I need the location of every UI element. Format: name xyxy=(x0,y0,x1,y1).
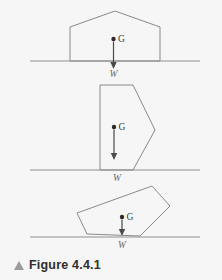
center-of-gravity-dot-3 xyxy=(120,215,124,219)
cg-label-3: G xyxy=(127,212,134,222)
tilted-quadrilateral-panel: G W xyxy=(30,186,200,250)
house-shaped-pentagon xyxy=(70,11,160,61)
tilted-quadrilateral xyxy=(77,186,170,236)
triangle-up-icon xyxy=(14,261,24,270)
figure-caption: Figure 4.4.1 xyxy=(14,258,101,272)
center-of-gravity-dot-1 xyxy=(111,37,115,41)
figure-diagram: G W G W G W xyxy=(0,0,222,280)
figure-caption-label: Figure 4.4.1 xyxy=(29,258,101,272)
center-of-gravity-dot-2 xyxy=(112,125,116,129)
weight-arrow-head-1 xyxy=(110,62,116,69)
weight-label-2: W xyxy=(113,173,122,183)
house-pentagon-panel: G W xyxy=(30,11,200,79)
weight-arrow-head-2 xyxy=(111,153,117,160)
cg-label-2: G xyxy=(119,122,126,132)
weight-label-3: W xyxy=(118,240,127,250)
weight-label-1: W xyxy=(110,69,119,79)
concave-arrow-polygon xyxy=(100,85,155,170)
cg-label-1: G xyxy=(118,34,125,44)
arrow-polygon-panel: G W xyxy=(30,85,200,183)
figure-container: G W G W G W Figure 4.4.1 xyxy=(0,0,222,280)
